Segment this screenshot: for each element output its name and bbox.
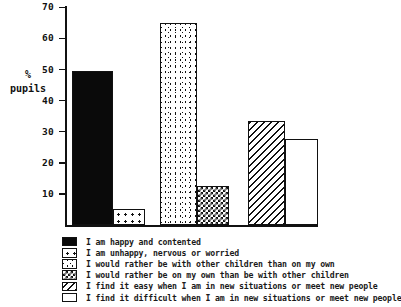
x-axis-line [65, 225, 318, 227]
bar-3 [160, 23, 197, 225]
legend-swatch-white-icon [62, 293, 77, 303]
legend-item-label: I find it easy when I am in new situatio… [86, 281, 378, 291]
legend-item: I would rather be on my own than be with… [62, 270, 362, 281]
y-tick-label: 50 [14, 64, 54, 75]
y-tick-mark [59, 38, 66, 40]
y-tick-label: 10 [14, 188, 54, 199]
legend-swatch-speckle-icon [62, 259, 77, 269]
y-tick-label: 40 [14, 95, 54, 106]
bar-1 [72, 71, 113, 225]
legend-swatch-coarse-dots-icon [62, 248, 77, 258]
legend-item-label: I would rather be on my own than be with… [86, 270, 349, 280]
legend-item: I find it easy when I am in new situatio… [62, 281, 362, 292]
y-tick-label: 20 [14, 157, 54, 168]
y-tick-mark [59, 100, 66, 102]
legend-item-label: I am unhappy, nervous or worried [86, 248, 239, 258]
legend-item-label: I would rather be with other children th… [86, 259, 335, 269]
y-tick-mark [59, 193, 66, 195]
bar-5 [248, 121, 285, 225]
bar-2 [113, 209, 145, 225]
legend-item: I find it difficult when I am in new sit… [62, 292, 362, 303]
legend-item: I would rather be with other children th… [62, 258, 362, 269]
y-tick-label: 30 [14, 126, 54, 137]
y-tick-mark [59, 162, 66, 164]
legend-item: I am unhappy, nervous or worried [62, 247, 362, 258]
y-tick-mark [59, 7, 66, 9]
bar-4 [197, 186, 229, 225]
y-tick-label: 70 [14, 1, 54, 12]
legend-swatch-diagonal-hatch-icon [62, 282, 77, 292]
y-tick-mark [59, 69, 66, 71]
legend-item: I am happy and contented [62, 236, 362, 247]
cropped-title-sliver [34, 0, 334, 2]
y-tick-mark [59, 131, 66, 133]
chart-legend: I am happy and contentedI am unhappy, ne… [62, 236, 362, 303]
legend-swatch-solid-black-icon [62, 237, 77, 247]
legend-swatch-checker-icon [62, 270, 77, 280]
y-tick-label: 60 [14, 32, 54, 43]
legend-item-label: I find it difficult when I am in new sit… [86, 293, 401, 303]
bar-6 [285, 139, 318, 225]
legend-item-label: I am happy and contented [86, 237, 201, 247]
